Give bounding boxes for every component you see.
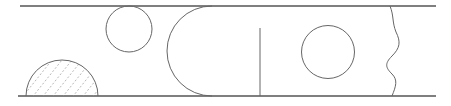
center-circle bbox=[302, 26, 355, 79]
hatch-pattern bbox=[10, 50, 130, 100]
hatched-semicircle bbox=[10, 50, 130, 100]
top-circle bbox=[106, 6, 152, 52]
d-arc bbox=[167, 6, 212, 96]
wavy-boundary bbox=[387, 6, 399, 96]
channel-diagram bbox=[0, 0, 451, 106]
semicircle-outline bbox=[26, 60, 98, 96]
